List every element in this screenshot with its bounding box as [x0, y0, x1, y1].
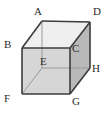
vertex-label-h: H	[92, 63, 100, 74]
vertex-label-a: A	[34, 6, 42, 17]
vertex-label-c: C	[72, 43, 79, 54]
edge-A-D	[42, 21, 90, 22]
vertex-label-d: D	[93, 6, 101, 17]
vertex-label-f: F	[4, 93, 10, 104]
cube-figure: A D B C E H F G	[0, 0, 108, 114]
cube-drawing	[0, 0, 108, 114]
vertex-label-g: G	[72, 96, 80, 107]
vertex-label-e: E	[40, 56, 47, 67]
vertex-label-b: B	[4, 39, 11, 50]
